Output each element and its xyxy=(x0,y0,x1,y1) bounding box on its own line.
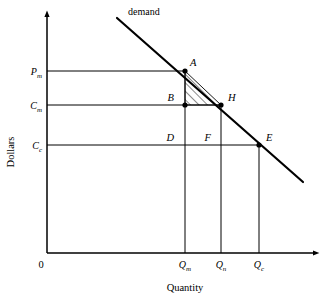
demand-curve-label: demand xyxy=(128,6,160,17)
point-label-d: D xyxy=(165,132,174,143)
axes-group xyxy=(47,14,316,253)
point-label-a: A xyxy=(189,57,197,68)
origin-label: 0 xyxy=(38,259,43,270)
deadweight-loss-triangle xyxy=(185,71,221,105)
x-tick-qm: Qm xyxy=(179,259,191,273)
y-tick-cc: Cc xyxy=(32,140,43,154)
horizontal-guide-lines xyxy=(47,71,259,145)
point-label-h: H xyxy=(227,92,237,103)
point-dot-e xyxy=(256,142,261,147)
x-tick-qc: Qc xyxy=(254,259,265,273)
y-tick-pm: Pm xyxy=(30,66,42,80)
y-tick-cm: Cm xyxy=(30,100,42,114)
point-label-b: B xyxy=(168,92,175,103)
y-axis-title: Dollars xyxy=(5,137,16,168)
point-label-f: F xyxy=(204,132,212,143)
diagram-canvas: A B H D F E demand Pm Cm Cc Qm Qn Qc 0 D… xyxy=(0,0,333,297)
point-dot-a xyxy=(182,68,187,73)
point-dot-b xyxy=(182,102,187,107)
economics-diagram: A B H D F E demand Pm Cm Cc Qm Qn Qc 0 D… xyxy=(0,0,333,297)
point-dot-h xyxy=(218,102,223,107)
demand-curve xyxy=(117,18,303,182)
y-tick-labels: Pm Cm Cc xyxy=(30,66,43,154)
x-axis-title: Quantity xyxy=(167,282,204,293)
x-tick-labels: Qm Qn Qc xyxy=(179,259,265,273)
point-label-e: E xyxy=(265,132,273,143)
x-tick-qn: Qn xyxy=(216,259,227,273)
